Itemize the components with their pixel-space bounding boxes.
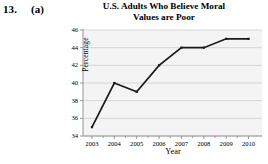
y-axis-title: Percentage — [81, 25, 90, 85]
x-tick-label: 2004 — [102, 140, 126, 147]
x-tick-label: 2007 — [169, 140, 193, 147]
x-tick-label: 2010 — [237, 140, 261, 147]
y-tick-label: 40 — [62, 79, 78, 86]
exercise-number: 13. — [3, 3, 17, 15]
chart-figure: U.S. Adults Who Believe Moral Values are… — [60, 0, 268, 164]
y-tick-label: 34 — [62, 132, 78, 139]
x-tick-label: 2009 — [214, 140, 238, 147]
exercise-figure-page: 13. (a) U.S. Adults Who Believe Moral Va… — [0, 0, 268, 164]
y-tick-label: 44 — [62, 44, 78, 51]
x-tick-label: 2008 — [192, 140, 216, 147]
x-axis-title: Year — [78, 147, 268, 156]
y-tick-label: 38 — [62, 97, 78, 104]
x-tick-label: 2005 — [125, 140, 149, 147]
x-tick-label: 2003 — [80, 140, 104, 147]
y-tick-label: 36 — [62, 114, 78, 121]
x-tick-label: 2006 — [147, 140, 171, 147]
y-tick-label: 42 — [62, 61, 78, 68]
exercise-part-label: (a) — [31, 3, 44, 15]
y-tick-label: 46 — [62, 26, 78, 33]
